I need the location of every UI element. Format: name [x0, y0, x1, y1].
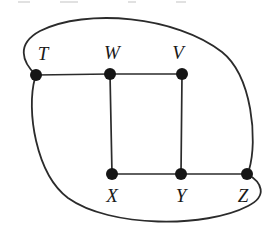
- graph-diagram-figure: T W V X Y Z: [0, 0, 272, 236]
- vertex-label-z: Z: [238, 185, 249, 206]
- straight-edges-group: [36, 74, 247, 174]
- edge-curve-t-z-upper: [24, 18, 253, 170]
- vertex-label-w: W: [104, 42, 122, 63]
- vertices-group: [30, 68, 253, 180]
- vertex-dot-w: [104, 68, 116, 80]
- vertex-label-y: Y: [176, 185, 189, 206]
- vertex-dot-x: [106, 168, 118, 180]
- graph-canvas: T W V X Y Z: [0, 0, 272, 236]
- vertex-label-v: V: [172, 42, 186, 63]
- vertex-dot-t: [30, 69, 42, 81]
- vertex-dot-v: [176, 68, 188, 80]
- vertex-label-x: X: [105, 185, 119, 206]
- edge-w-x: [110, 74, 112, 174]
- curved-edges-group: [24, 18, 261, 222]
- vertex-dot-z: [241, 168, 253, 180]
- vertex-labels-group: T W V X Y Z: [38, 42, 249, 206]
- edge-curve-z-t-lower: [32, 78, 261, 222]
- edge-t-w: [36, 74, 110, 75]
- edge-v-y: [181, 74, 182, 174]
- vertex-dot-y: [175, 168, 187, 180]
- vertex-label-t: T: [38, 43, 50, 64]
